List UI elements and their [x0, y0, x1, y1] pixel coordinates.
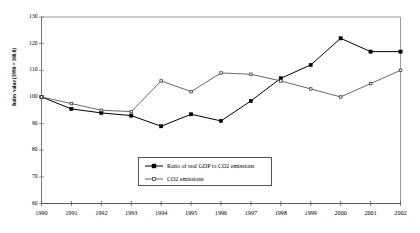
data-point — [309, 63, 312, 66]
data-point — [280, 80, 283, 83]
data-point — [339, 96, 342, 99]
x-tick-label-1999: 1999 — [296, 210, 326, 216]
x-tick-label-2002: 2002 — [386, 210, 416, 216]
data-point — [130, 114, 133, 117]
y-tick-label-100: 100 — [18, 94, 38, 100]
series-1 — [40, 37, 402, 128]
series-line — [42, 70, 401, 111]
x-tick-label-1998: 1998 — [266, 210, 296, 216]
x-tick-label-1996: 1996 — [206, 210, 236, 216]
data-point — [100, 109, 103, 112]
series-2 — [40, 69, 402, 113]
y-tick-label-120: 120 — [18, 41, 38, 47]
x-tick-label-1995: 1995 — [176, 210, 206, 216]
data-point — [369, 50, 372, 53]
line-chart-plot — [0, 0, 420, 233]
x-tick-label-1991: 1991 — [56, 210, 86, 216]
data-point — [220, 72, 223, 75]
legend-label-2: CO2 emissions — [167, 176, 204, 182]
x-tick-label-1992: 1992 — [86, 210, 116, 216]
data-point — [369, 82, 372, 85]
y-tick-label-130: 130 — [18, 14, 38, 20]
y-tick-label-80: 80 — [18, 147, 38, 153]
y-tick-label-90: 90 — [18, 121, 38, 127]
x-tick-label-2000: 2000 — [326, 210, 356, 216]
x-tick-label-1994: 1994 — [146, 210, 176, 216]
data-point — [189, 113, 192, 116]
x-tick-label-1993: 1993 — [116, 210, 146, 216]
data-point — [399, 69, 402, 72]
y-tick-label-60: 60 — [18, 201, 38, 207]
legend-marker-hollow-square-icon — [144, 175, 164, 183]
legend-label-1: Ratio of real GDP to CO2 emissions — [167, 163, 254, 169]
data-point — [310, 88, 313, 91]
data-point — [40, 96, 43, 99]
data-point — [399, 50, 402, 53]
data-point — [130, 110, 133, 113]
data-point — [219, 119, 222, 122]
legend-item-1: Ratio of real GDP to CO2 emissions — [144, 162, 254, 170]
y-tick-label-70: 70 — [18, 174, 38, 180]
y-axis-title: Index value (1990 = 100.0) — [11, 17, 17, 137]
data-point — [70, 107, 73, 110]
x-tick-label-1997: 1997 — [236, 210, 266, 216]
data-point — [70, 102, 73, 105]
legend-item-2: CO2 emissions — [144, 175, 204, 183]
x-tick-label-1990: 1990 — [27, 210, 57, 216]
data-point — [249, 99, 252, 102]
data-point — [160, 80, 163, 83]
x-tick-label-2001: 2001 — [356, 210, 386, 216]
chart-container: Index value (1990 = 100.0) 1301201101009… — [0, 0, 420, 233]
data-point — [159, 125, 162, 128]
data-point — [339, 37, 342, 40]
data-point — [190, 90, 193, 93]
legend-marker-filled-square-icon — [144, 162, 164, 170]
series-line — [42, 38, 401, 126]
y-tick-label-110: 110 — [18, 67, 38, 73]
data-point — [250, 73, 253, 76]
